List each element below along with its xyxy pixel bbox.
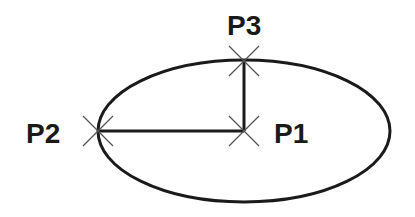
ellipse-diagram: P1 P2 P3	[0, 0, 415, 217]
p2-label: P2	[26, 118, 60, 149]
p3-label: P3	[227, 10, 261, 41]
p1-label: P1	[274, 118, 308, 149]
